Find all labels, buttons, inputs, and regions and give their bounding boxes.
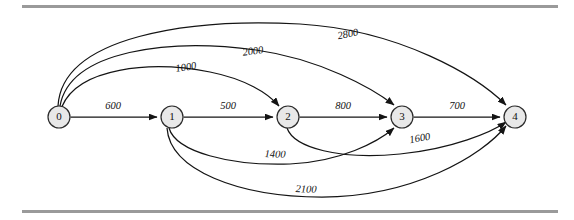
edge-0-to-2: [62, 67, 279, 107]
edge-weight-label-1-2: 500: [220, 100, 237, 111]
node-label-1: 1: [169, 110, 175, 122]
node-2[interactable]: 2: [277, 106, 299, 128]
node-0[interactable]: 0: [48, 106, 70, 128]
node-4[interactable]: 4: [504, 106, 526, 128]
edge-weight-label-2-4: 1600: [409, 131, 432, 146]
node-3[interactable]: 3: [391, 106, 413, 128]
node-label-0: 0: [56, 110, 62, 122]
node-label-2: 2: [285, 110, 291, 122]
directed-weighted-graph: 01234 6005008007001000200028001400160021…: [0, 0, 574, 220]
node-label-3: 3: [399, 110, 405, 122]
edge-0-to-4: [58, 23, 506, 106]
node-1[interactable]: 1: [161, 106, 183, 128]
edge-weight-label-3-4: 700: [449, 100, 466, 111]
graph-figure: 01234 6005008007001000200028001400160021…: [0, 0, 574, 220]
edge-weight-label-0-3: 2000: [242, 44, 265, 58]
edge-1-to-4: [167, 126, 506, 197]
edge-weight-label-0-1: 600: [105, 100, 122, 111]
edge-weight-label-2-3: 800: [335, 100, 352, 111]
edge-weight-label-1-3: 1400: [264, 148, 286, 160]
edge-weight-label-0-2: 1000: [175, 60, 198, 74]
edge-weight-label-1-4: 2100: [295, 183, 317, 195]
node-label-4: 4: [512, 110, 518, 122]
